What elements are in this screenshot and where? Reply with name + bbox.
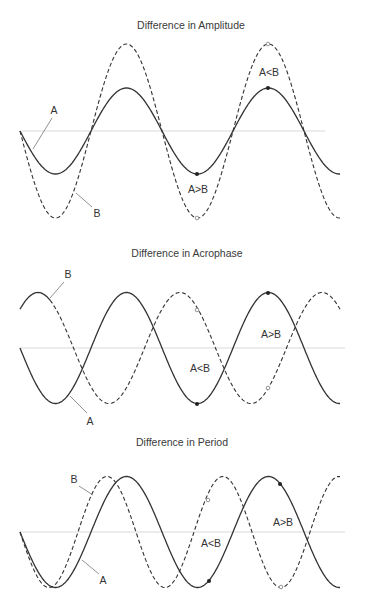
- label-a-lt-b: A<B: [259, 66, 279, 78]
- marker-b-point: [206, 498, 210, 502]
- marker-a-point: [278, 482, 282, 486]
- label-a: A: [99, 574, 106, 586]
- marker-a-trough: [195, 172, 199, 176]
- label-a-gt-b: A>B: [261, 328, 281, 340]
- waveform-figure: Difference in Amplitude A B A>B A<B Diff…: [0, 0, 365, 598]
- marker-b-trough: [195, 216, 199, 220]
- label-a-lt-b: A<B: [190, 362, 210, 374]
- panel-title-amplitude: Difference in Amplitude: [137, 19, 245, 31]
- leader-a-acrophase: [70, 396, 87, 413]
- marker-a-point: [207, 579, 211, 583]
- leader-a-amplitude: [33, 118, 52, 149]
- leader-b-period: [79, 486, 93, 495]
- marker-b-point: [195, 308, 199, 312]
- wave-b-acrophase-solid: [20, 293, 50, 310]
- marker-b-point: [266, 386, 270, 390]
- leader-a-period: [82, 560, 99, 574]
- label-b: B: [93, 207, 100, 219]
- panel-period: Difference in Period B A A<B A>B: [20, 436, 345, 589]
- panel-acrophase: Difference in Acrophase B A A<B A>B: [20, 247, 345, 427]
- panel-title-period: Difference in Period: [136, 436, 228, 448]
- leader-b-amplitude: [76, 193, 92, 207]
- marker-b-peak: [266, 42, 270, 46]
- label-a: A: [86, 415, 93, 427]
- label-a-lt-b: A<B: [201, 537, 221, 549]
- label-b: B: [64, 268, 71, 280]
- label-a-gt-b: A>B: [188, 183, 208, 195]
- marker-b-trough: [279, 585, 283, 589]
- marker-a-trough: [195, 402, 199, 406]
- leader-b-acrophase: [50, 282, 64, 298]
- marker-a-peak: [266, 86, 270, 90]
- marker-a-peak: [266, 291, 270, 295]
- panel-amplitude: Difference in Amplitude A B A>B A<B: [20, 19, 340, 220]
- panel-title-acrophase: Difference in Acrophase: [131, 247, 242, 259]
- label-a: A: [50, 104, 57, 116]
- label-b: B: [70, 473, 77, 485]
- label-a-gt-b: A>B: [273, 516, 293, 528]
